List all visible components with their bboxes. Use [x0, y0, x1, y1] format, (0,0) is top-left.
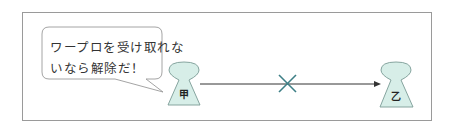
party-a-label: 甲 [179, 86, 189, 101]
party-b-label: 乙 [391, 88, 401, 103]
speech-line-2: いなら解除だ！ [50, 58, 162, 79]
speech-line-1: ワープロを受け取れな [50, 37, 162, 58]
arrow-head-icon [374, 81, 381, 87]
speech-bubble-text: ワープロを受け取れな いなら解除だ！ [50, 37, 162, 79]
